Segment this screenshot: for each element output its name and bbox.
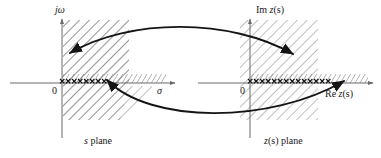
left-plane-group xyxy=(10,19,175,138)
right-plane-origin-label: 0 xyxy=(240,86,245,96)
right-plane-group xyxy=(198,19,373,138)
right-plane-imaginary-axis-label: Im z(s) xyxy=(256,5,284,15)
left-plane-real-axis-label: σ xyxy=(157,86,162,96)
figure-canvas xyxy=(0,0,381,158)
left-plane-hatched-region xyxy=(63,20,152,120)
left-plane-axis-cut-hatching xyxy=(62,74,166,83)
left-plane-origin-label: 0 xyxy=(52,86,57,96)
right-plane-real-axis-label-prefix: Re xyxy=(325,88,339,99)
left-plane-imaginary-axis-label: jω xyxy=(55,5,65,15)
left-plane-caption-text: plane xyxy=(88,135,112,146)
left-plane-caption: s plane xyxy=(84,136,112,146)
right-plane-imaginary-axis-label-suffix: (s) xyxy=(274,4,285,15)
right-plane-real-axis-label-suffix: (s) xyxy=(343,88,354,99)
right-plane-real-axis-label: Re z(s) xyxy=(325,89,353,99)
right-plane-caption-text: (s) plane xyxy=(268,135,303,146)
complex-plane-mapping-figure: jω σ 0 s plane Im z(s) Re z(s) 0 z(s) pl… xyxy=(0,0,381,158)
right-plane-caption: z(s) plane xyxy=(264,136,303,146)
right-plane-imaginary-axis-label-prefix: Im xyxy=(256,4,270,15)
